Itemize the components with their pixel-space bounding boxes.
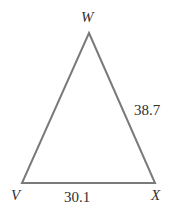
- geometry-figure: W V X 38.7 30.1: [0, 0, 175, 221]
- vertex-label-x: X: [151, 188, 160, 203]
- vertex-label-w: W: [81, 10, 94, 25]
- vertex-label-v: V: [11, 188, 20, 203]
- side-length-label-wx: 38.7: [134, 103, 160, 118]
- side-length-label-vx: 30.1: [64, 190, 90, 205]
